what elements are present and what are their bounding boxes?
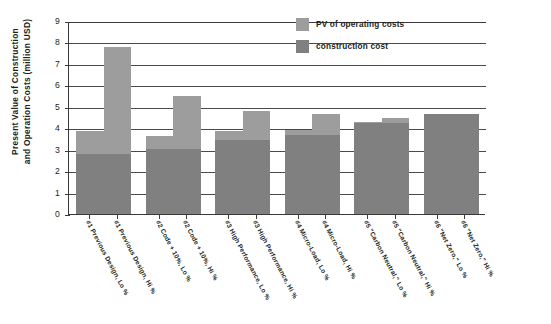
bar-segment-operating-cost xyxy=(312,114,340,134)
bar xyxy=(146,136,174,214)
bar-segment-construction-cost xyxy=(424,114,452,214)
legend: PV of operating costs construction cost xyxy=(296,18,471,62)
y-tick-label: 1 xyxy=(46,188,60,198)
bar-segment-operating-cost xyxy=(215,131,243,140)
bar-segment-operating-cost xyxy=(104,47,132,154)
legend-swatch-construction-icon xyxy=(296,40,309,53)
bar-segment-construction-cost xyxy=(173,149,201,214)
bar-segment-construction-cost xyxy=(354,123,382,214)
y-tick-label: 7 xyxy=(46,59,60,69)
y-tick-label: 8 xyxy=(46,37,60,47)
bar-segment-operating-cost xyxy=(76,131,104,154)
y-tick-label: 2 xyxy=(46,166,60,176)
bar xyxy=(451,114,479,214)
bar-segment-construction-cost xyxy=(146,149,174,214)
bar xyxy=(424,114,452,214)
bar-segment-operating-cost xyxy=(146,136,174,149)
legend-label-operating: PV of operating costs xyxy=(316,20,404,29)
bar-segment-construction-cost xyxy=(382,123,410,214)
legend-label-construction: construction cost xyxy=(316,42,388,51)
bar xyxy=(173,96,201,214)
y-tick-label: 4 xyxy=(46,123,60,133)
y-axis-title: Present Value of Construction and Operat… xyxy=(0,0,42,240)
bar xyxy=(382,118,410,215)
y-axis-title-text: Present Value of Construction and Operat… xyxy=(10,0,33,192)
y-tick-label: 6 xyxy=(46,80,60,90)
bar-segment-operating-cost xyxy=(173,96,201,149)
bar xyxy=(215,131,243,214)
legend-swatch-operating-icon xyxy=(296,18,309,31)
bar-segment-construction-cost xyxy=(76,154,104,214)
bar xyxy=(312,114,340,214)
y-tick-label: 3 xyxy=(46,145,60,155)
bar xyxy=(104,47,132,214)
x-axis-labels: #1 Previous Design, Lo %#1 Previous Desi… xyxy=(68,215,485,324)
bar-segment-construction-cost xyxy=(451,114,479,214)
bar-segment-construction-cost xyxy=(312,135,340,214)
y-tick-label: 5 xyxy=(46,102,60,112)
bar xyxy=(285,130,313,214)
bar xyxy=(243,111,271,214)
y-tick-label: 0 xyxy=(46,209,60,219)
bar-segment-construction-cost xyxy=(243,140,271,214)
legend-item-construction: construction cost xyxy=(296,40,471,53)
bar-chart: Present Value of Construction and Operat… xyxy=(0,0,551,324)
bar-segment-construction-cost xyxy=(215,140,243,214)
bar xyxy=(354,122,382,214)
y-tick-label: 9 xyxy=(46,16,60,26)
bar xyxy=(76,131,104,214)
bar-segment-construction-cost xyxy=(104,154,132,214)
bar-segment-operating-cost xyxy=(243,111,271,140)
legend-item-operating: PV of operating costs xyxy=(296,18,471,31)
bar-segment-construction-cost xyxy=(285,135,313,214)
